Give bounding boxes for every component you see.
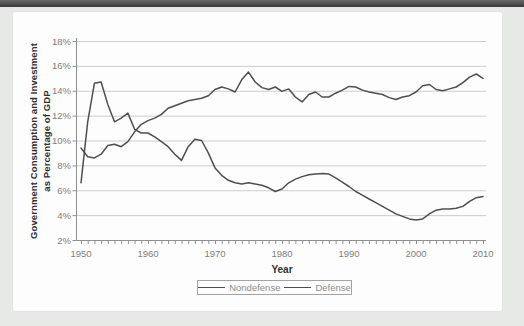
- y-tick-label: 4%: [57, 210, 71, 221]
- x-tick-label: 1990: [338, 248, 359, 259]
- x-tick-label: 1960: [137, 248, 158, 259]
- x-tick-label: 2010: [472, 248, 493, 259]
- series-line-defense: [81, 82, 483, 220]
- series-line-nondefense: [81, 72, 483, 158]
- legend-label-defense: Defense: [315, 282, 350, 293]
- x-tick-label: 1970: [204, 248, 225, 259]
- x-tick-label: 2000: [405, 248, 426, 259]
- x-tick-label: 1980: [271, 248, 292, 259]
- y-tick-label: 18%: [52, 36, 72, 47]
- x-tick-label: 1950: [70, 248, 91, 259]
- y-axis-title-line2: as Percentage of GDP: [40, 31, 53, 251]
- y-tick-label: 8%: [57, 160, 71, 171]
- legend-label-nondefense: Nondefense: [229, 282, 280, 293]
- y-tick-label: 10%: [52, 135, 72, 146]
- nondefense-line-swatch-icon: [198, 287, 225, 288]
- y-tick-label: 16%: [52, 60, 72, 71]
- defense-line-swatch-icon: [284, 287, 311, 288]
- y-tick-label: 2%: [57, 235, 71, 246]
- x-axis-title: Year: [250, 264, 314, 275]
- line-chart: 18%16%14%12%10%8%6%4%2%19501960197019801…: [0, 0, 524, 326]
- y-axis-title-line1: Government Consumption and Investment: [27, 31, 40, 251]
- legend: Nondefense Defense: [197, 280, 352, 295]
- y-tick-label: 6%: [57, 185, 71, 196]
- y-tick-label: 14%: [52, 85, 72, 96]
- y-axis-title: Government Consumption and Investment as…: [27, 31, 53, 251]
- y-tick-label: 12%: [52, 110, 72, 121]
